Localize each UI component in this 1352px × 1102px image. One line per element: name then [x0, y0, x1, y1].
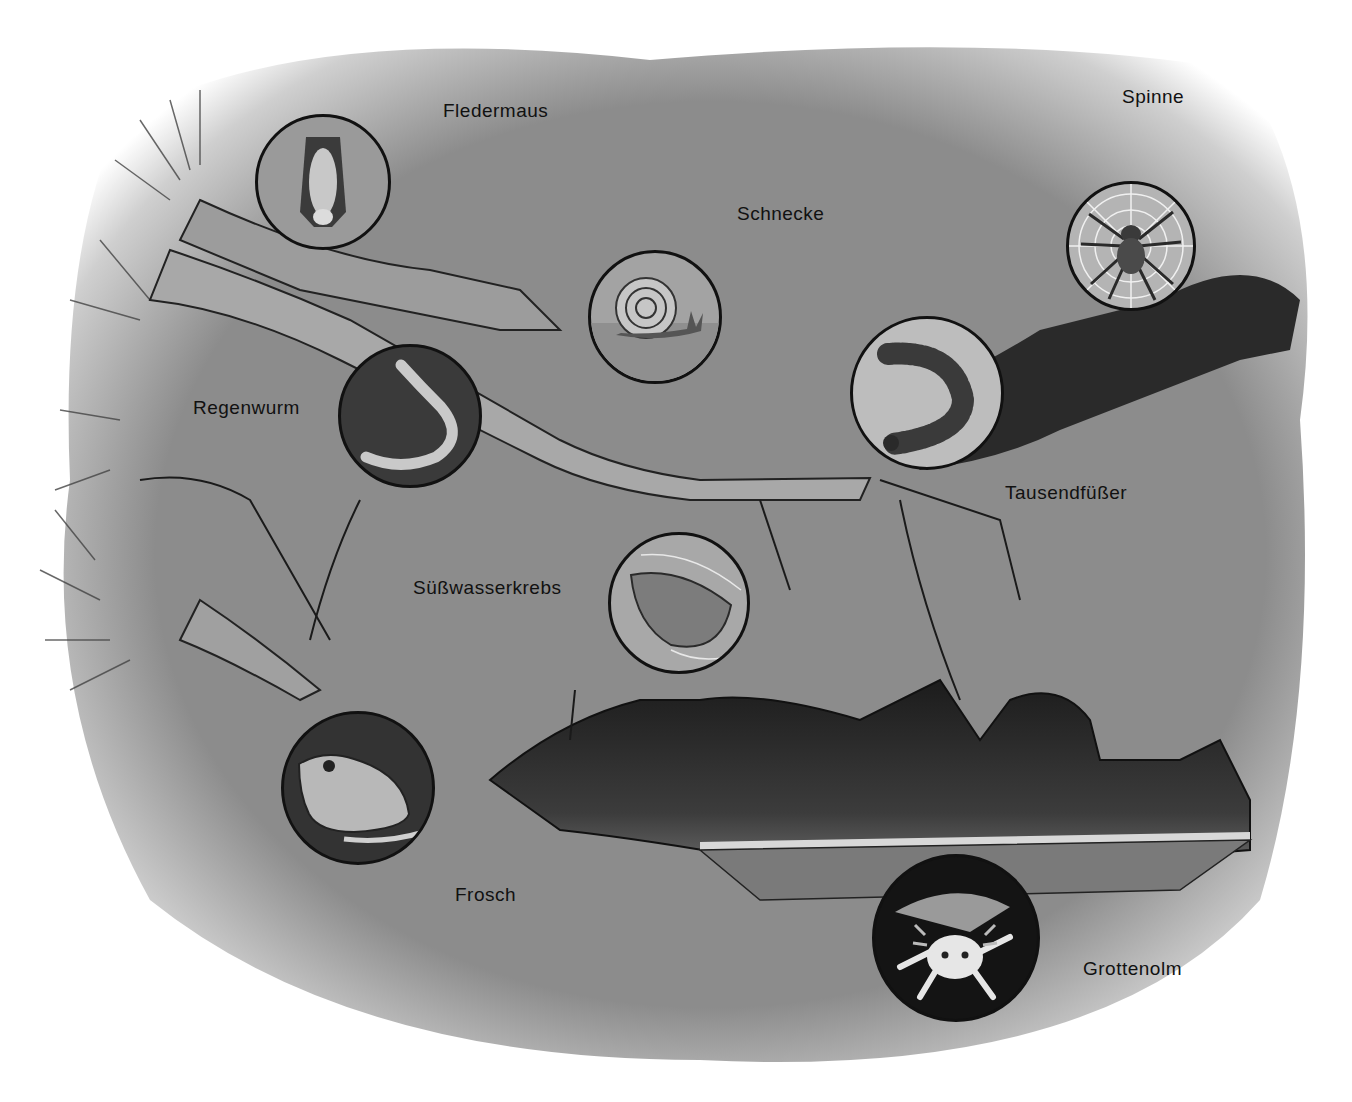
earthworm-icon [341, 347, 479, 485]
label-suesswasserkrebs: Süßwasserkrebs [413, 577, 562, 599]
snail-icon [591, 253, 719, 381]
olm-medallion [872, 854, 1040, 1022]
spider-medallion [1066, 181, 1196, 311]
frog-medallion [281, 711, 435, 865]
bat-icon [258, 117, 388, 247]
olm-axolotl-icon [875, 857, 1037, 1019]
label-spinne: Spinne [1122, 86, 1184, 108]
earthworm-medallion [338, 344, 482, 488]
label-regenwurm: Regenwurm [193, 397, 300, 419]
label-frosch: Frosch [455, 884, 516, 906]
label-fledermaus: Fledermaus [443, 100, 548, 122]
spider-icon [1069, 184, 1193, 308]
label-tausendfuesser: Tausendfüßer [1005, 482, 1127, 504]
freshwater-shrimp-icon [611, 535, 747, 671]
millipede-icon [853, 319, 1001, 467]
label-grottenolm: Grottenolm [1083, 958, 1182, 980]
snail-medallion [588, 250, 722, 384]
millipede-medallion [850, 316, 1004, 470]
bat-medallion [255, 114, 391, 250]
cave-animals-illustration: Fledermaus Schnecke Spinne Regenwurm Tau… [0, 0, 1352, 1102]
frog-icon [284, 714, 432, 862]
label-schnecke: Schnecke [737, 203, 824, 225]
freshwater-shrimp-medallion [608, 532, 750, 674]
